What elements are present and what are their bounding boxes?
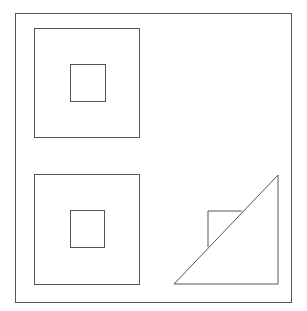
bottom-right-triangle: [174, 175, 278, 284]
bottom-left-outer-square: [35, 175, 140, 285]
outer-frame: [16, 14, 292, 303]
bottom-left-inner-square: [71, 211, 105, 248]
top-left-outer-square: [35, 29, 140, 138]
top-left-inner-square: [71, 65, 106, 102]
bottom-right-partial-square: [208, 211, 242, 247]
diagram-canvas: [0, 0, 307, 311]
